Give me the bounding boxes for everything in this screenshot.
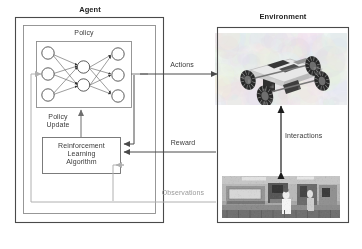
neural-network-nodes xyxy=(42,47,124,102)
interactions-label: Interactions xyxy=(285,132,343,140)
actions-label: Actions xyxy=(162,61,202,69)
node-hidden-1 xyxy=(77,61,89,73)
rl-algorithm-label: Reinforcement Learning Algorithm xyxy=(44,142,119,166)
node-input-2 xyxy=(42,68,54,80)
node-output-3 xyxy=(112,90,124,102)
policy-label: Policy xyxy=(54,29,114,37)
rl-diagram: Agent Policy Policy Update Reinforcement… xyxy=(0,0,362,249)
environment-box xyxy=(218,28,349,223)
reward-label: Reward xyxy=(163,139,203,147)
agent-title: Agent xyxy=(60,6,120,14)
environment-title: Environment xyxy=(252,13,314,21)
observations-branch xyxy=(113,165,124,201)
action-feedback-path xyxy=(124,75,134,144)
node-output-2 xyxy=(112,69,124,81)
node-hidden-2 xyxy=(77,79,89,91)
node-input-3 xyxy=(42,89,54,101)
agent-box xyxy=(16,18,164,223)
observations-label: Observations xyxy=(156,189,210,197)
node-input-1 xyxy=(42,47,54,59)
node-output-1 xyxy=(112,48,124,60)
policy-update-label: Policy Update xyxy=(39,113,77,129)
